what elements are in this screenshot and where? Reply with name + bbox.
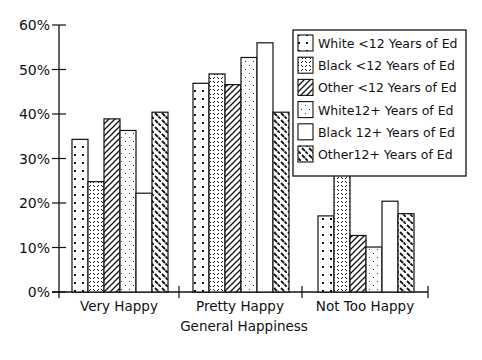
legend-swatch	[298, 79, 313, 95]
x-axis-title: General Happiness	[180, 318, 308, 334]
legend-label: White12+ Years of Ed	[318, 103, 454, 118]
y-tick-label: 0%	[28, 284, 50, 300]
bar	[193, 83, 209, 292]
x-category-label: Not Too Happy	[316, 298, 414, 314]
bar	[273, 112, 289, 292]
legend-label: Other <12 Years of Ed	[318, 80, 457, 95]
y-tick-label: 10%	[19, 240, 50, 256]
bar	[257, 43, 273, 292]
legend-swatch	[298, 102, 313, 118]
legend-label: Black 12+ Years of Ed	[318, 125, 455, 140]
bar	[120, 130, 136, 292]
bar	[72, 139, 88, 292]
legend: White <12 Years of EdBlack <12 Years of …	[293, 30, 466, 176]
bar	[366, 247, 382, 292]
x-category-label: Pretty Happy	[196, 298, 284, 314]
legend-label: White <12 Years of Ed	[318, 36, 457, 51]
bar	[398, 214, 414, 292]
bar	[104, 119, 120, 292]
legend-label: Other12+ Years of Ed	[318, 147, 453, 162]
y-tick-label: 60%	[19, 17, 50, 33]
bar	[241, 57, 257, 292]
y-tick-label: 30%	[19, 151, 50, 167]
bar	[225, 85, 241, 292]
bar	[318, 216, 334, 292]
legend-label: Black <12 Years of Ed	[318, 58, 455, 73]
bar	[382, 201, 398, 292]
bar	[350, 235, 366, 292]
bar	[136, 193, 152, 292]
grouped-bar-chart: 0%10%20%30%40%50%60% Very HappyPretty Ha…	[0, 0, 482, 360]
legend-swatch	[298, 146, 313, 162]
x-category-label: Very Happy	[80, 298, 158, 314]
bar	[209, 74, 225, 292]
bar	[152, 112, 168, 292]
bar	[88, 182, 104, 292]
legend-swatch	[298, 57, 313, 73]
legend-swatch	[298, 124, 313, 140]
bar	[334, 175, 350, 292]
y-tick-label: 20%	[19, 195, 50, 211]
y-tick-label: 50%	[19, 62, 50, 78]
y-axis: 0%10%20%30%40%50%60%	[19, 17, 66, 300]
legend-swatch	[298, 35, 313, 51]
y-tick-label: 40%	[19, 106, 50, 122]
